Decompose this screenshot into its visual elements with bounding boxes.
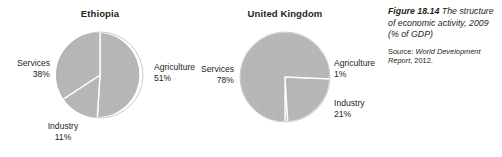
figure-source: Source: World Development Report, 2012.	[388, 47, 498, 66]
label-ethiopia-services-name: Services	[17, 58, 50, 68]
label-uk-industry-value: 21%	[334, 109, 365, 120]
slice-ethiopia-agriculture	[97, 32, 140, 118]
pie-chart-united-kingdom: United Kingdom Services 78% Agriculture …	[200, 0, 385, 157]
label-uk-agriculture-value: 1%	[334, 69, 375, 80]
figure-container: Ethiopia Services 38% Agriculture 51%	[0, 0, 502, 157]
label-uk-services: Services 78%	[178, 64, 234, 85]
source-prefix: Source:	[388, 47, 416, 56]
label-uk-services-value: 78%	[178, 75, 234, 86]
label-ethiopia-industry-value: 11%	[32, 132, 94, 143]
label-ethiopia-industry: Industry 11%	[32, 121, 94, 142]
label-uk-agriculture: Agriculture 1%	[334, 58, 375, 79]
label-ethiopia-industry-name: Industry	[48, 121, 79, 131]
label-uk-industry-name: Industry	[334, 98, 365, 108]
source-suffix: , 2012.	[410, 56, 433, 65]
label-uk-industry: Industry 21%	[334, 98, 365, 119]
caption-main-text: Figure 18.14 The structure of economic a…	[388, 6, 498, 41]
label-uk-agriculture-name: Agriculture	[334, 58, 375, 68]
figure-caption: Figure 18.14 The structure of economic a…	[388, 6, 498, 66]
figure-number: Figure 18.14	[388, 6, 439, 16]
label-ethiopia-services-value: 38%	[2, 69, 50, 80]
label-ethiopia-services: Services 38%	[2, 58, 50, 79]
slice-uk-industry	[285, 77, 330, 122]
label-uk-services-name: Services	[201, 64, 234, 74]
